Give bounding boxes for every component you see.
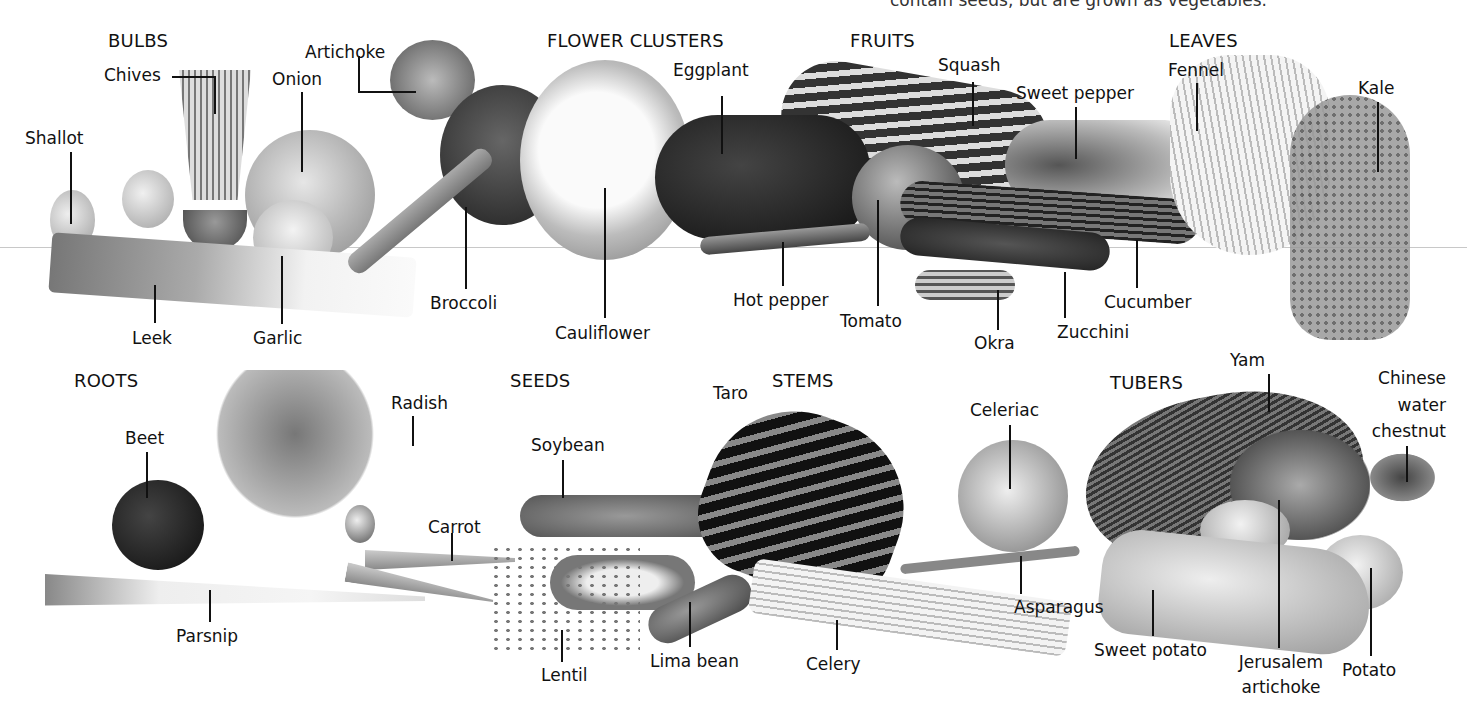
group-title-roots: ROOTS [74, 370, 138, 391]
leader-line-cauliflower [604, 188, 606, 318]
group-title-flower-clusters: FLOWER CLUSTERS [547, 30, 724, 51]
label-jerusalem-artichoke-line2: artichoke [1236, 677, 1326, 697]
leader-line-garlic [281, 256, 283, 324]
leader-line-chinese-water-chestnut [1406, 446, 1408, 482]
label-carrot: Carrot [428, 517, 481, 537]
leader-line-artichoke [358, 56, 360, 92]
leader-line-squash [972, 82, 974, 126]
leader-line-parsnip [209, 590, 211, 622]
leader-line-yam [1268, 374, 1270, 412]
leader-line-artichoke-2 [358, 91, 416, 93]
asparagus-illustration [900, 546, 1080, 575]
okra-illustration [915, 270, 1015, 300]
leader-line-soybean [562, 460, 564, 498]
label-tomato: Tomato [840, 311, 902, 331]
leader-line-radish [412, 416, 414, 446]
label-shallot: Shallot [25, 128, 84, 148]
leader-line-eggplant [721, 96, 723, 154]
beet-illustration [112, 480, 204, 570]
leader-line-onion [301, 92, 303, 172]
group-title-seeds: SEEDS [510, 370, 570, 391]
label-chives: Chives [104, 65, 161, 85]
group-title-stems: STEMS [772, 370, 834, 391]
label-broccoli: Broccoli [430, 293, 497, 313]
label-leek: Leek [132, 328, 172, 348]
leader-line-potato [1370, 568, 1372, 656]
label-chinese-water-chestnut-line2: water [1376, 395, 1446, 415]
leader-line-okra [997, 290, 999, 330]
label-onion: Onion [272, 69, 322, 89]
kale-illustration [1290, 95, 1410, 340]
label-okra: Okra [974, 333, 1015, 353]
label-cucumber: Cucumber [1104, 292, 1192, 312]
label-lima-bean: Lima bean [650, 651, 739, 671]
leader-line-cucumber [1136, 240, 1138, 288]
label-fennel: Fennel [1168, 60, 1224, 80]
label-cauliflower: Cauliflower [555, 323, 650, 343]
group-title-tubers: TUBERS [1110, 372, 1183, 393]
lentil-illustration [490, 545, 640, 655]
leader-line-lentil [561, 630, 563, 662]
leader-line-celery [836, 620, 838, 650]
leader-line-tomato [877, 200, 879, 306]
label-soybean: Soybean [531, 435, 605, 455]
label-sweet-potato: Sweet potato [1094, 640, 1207, 660]
label-celery: Celery [806, 654, 861, 674]
label-artichoke: Artichoke [305, 42, 385, 62]
leader-line-lima-bean [689, 602, 691, 647]
leader-line-hot-pepper [782, 242, 784, 286]
leader-line-shallot [70, 152, 72, 224]
leader-line-fennel [1196, 83, 1198, 131]
label-hot-pepper: Hot pepper [733, 290, 829, 310]
label-beet: Beet [125, 428, 164, 448]
leader-line-beet [146, 452, 148, 498]
radish-illustration [345, 505, 375, 543]
label-eggplant: Eggplant [673, 60, 749, 80]
group-title-bulbs: BULBS [108, 30, 168, 51]
leader-line-sweet-potato [1152, 590, 1154, 636]
leader-line-celeriac [1009, 425, 1011, 489]
label-sweet-pepper: Sweet pepper [1016, 83, 1134, 103]
leader-line-broccoli [465, 207, 467, 289]
celeriac-illustration [958, 440, 1068, 552]
leader-line-chives-2 [214, 76, 216, 114]
label-parsnip: Parsnip [176, 626, 238, 646]
label-yam: Yam [1230, 350, 1265, 370]
leader-line-asparagus [1020, 556, 1022, 594]
label-lentil: Lentil [541, 665, 588, 685]
label-jerusalem-artichoke-line1: Jerusalem [1236, 652, 1326, 672]
label-squash: Squash [938, 55, 1000, 75]
eggplant-illustration [655, 115, 870, 240]
leader-line-leek [154, 285, 156, 323]
label-garlic: Garlic [253, 328, 302, 348]
label-celeriac: Celeriac [970, 400, 1039, 420]
group-title-fruits: FRUITS [850, 30, 915, 51]
label-kale: Kale [1358, 78, 1394, 98]
caption-text: contain seeds, but are grown as vegetabl… [890, 0, 1267, 10]
leader-line-chives [172, 76, 216, 78]
leader-line-carrot [451, 533, 453, 561]
leader-line-jerusalem-artichoke [1278, 500, 1280, 648]
shallot-illustration-2 [122, 170, 174, 228]
label-zucchini: Zucchini [1057, 322, 1129, 342]
leader-line-sweet-pepper [1075, 107, 1077, 159]
chinese-water-chestnut-illustration [1365, 450, 1440, 505]
label-asparagus: Asparagus [1014, 597, 1104, 617]
group-title-leaves: LEAVES [1169, 30, 1238, 51]
label-chinese-water-chestnut-line3: chestnut [1365, 421, 1446, 441]
label-radish: Radish [391, 393, 448, 413]
label-taro: Taro [713, 383, 748, 403]
label-chinese-water-chestnut-line1: Chinese [1376, 368, 1446, 388]
leader-line-zucchini [1064, 272, 1066, 318]
label-potato: Potato [1342, 660, 1396, 680]
leader-line-kale [1377, 102, 1379, 172]
